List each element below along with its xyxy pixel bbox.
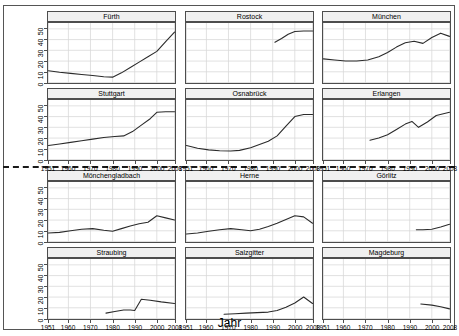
strip-label: Herne — [240, 172, 259, 180]
strip-header-erlangen: Erlangen — [322, 88, 451, 99]
x-tick-label: 2008 — [439, 165, 459, 172]
x-tick-label: 1960 — [332, 165, 354, 172]
strip-label: Mönchengladbach — [83, 172, 140, 180]
plot-area-furth — [47, 22, 176, 84]
plot-area-moenchengladbach — [47, 181, 176, 243]
y-tick-mark — [44, 264, 47, 265]
plot-area-herne — [185, 181, 314, 243]
panel-goerlitz: Görlitz — [322, 170, 451, 243]
y-tick-mark — [44, 83, 47, 84]
x-tick-label: 1990 — [262, 165, 284, 172]
y-tick-mark — [44, 187, 47, 188]
x-tick-mark — [228, 161, 229, 164]
plot-area-rostock — [185, 22, 314, 84]
strip-label: Fürth — [103, 13, 119, 21]
strip-label: Osnabrück — [233, 90, 267, 98]
y-tick-mark — [44, 138, 47, 139]
y-tick-label: 50 — [37, 105, 44, 145]
strip-label: Salzgitter — [235, 249, 264, 257]
plot-area-salzgitter — [185, 258, 314, 320]
x-tick-label: 1980 — [240, 165, 262, 172]
strip-label: Stuttgart — [98, 90, 124, 98]
x-tick-mark — [323, 161, 324, 164]
x-tick-label: 1970 — [354, 165, 376, 172]
panel-osnabrueck: Osnabrück — [185, 88, 314, 161]
plot-area-osnabrueck — [185, 99, 314, 161]
plot-area-goerlitz — [322, 181, 451, 243]
strip-label: Erlangen — [372, 90, 400, 98]
y-tick-mark — [44, 220, 47, 221]
y-tick-mark — [44, 297, 47, 298]
y-tick-mark — [44, 160, 47, 161]
panel-muenchen: München — [322, 11, 451, 84]
x-tick-mark — [313, 161, 314, 164]
x-tick-mark — [135, 161, 136, 164]
plot-area-stuttgart — [47, 99, 176, 161]
y-tick-mark — [44, 275, 47, 276]
x-tick-label: 1951 — [37, 165, 59, 172]
y-tick-mark — [44, 105, 47, 106]
y-tick-mark — [44, 127, 47, 128]
panel-salzgitter: Salzgitter — [185, 247, 314, 320]
y-tick-label: 50 — [37, 28, 44, 68]
x-tick-label: 1990 — [399, 165, 421, 172]
strip-label: Straubing — [97, 249, 127, 257]
x-tick-label: 1960 — [195, 165, 217, 172]
y-tick-mark — [44, 198, 47, 199]
y-tick-mark — [44, 308, 47, 309]
x-tick-mark — [388, 161, 389, 164]
strip-header-magdeburg: Magdeburg — [322, 247, 451, 258]
x-tick-mark — [90, 161, 91, 164]
plot-area-muenchen — [322, 22, 451, 84]
x-tick-label: 1980 — [377, 165, 399, 172]
x-tick-mark — [157, 161, 158, 164]
x-tick-mark — [343, 161, 344, 164]
plot-area-magdeburg — [322, 258, 451, 320]
strip-header-muenchen: München — [322, 11, 451, 22]
panel-furth: Fürth — [47, 11, 176, 84]
y-tick-mark — [44, 39, 47, 40]
strip-header-salzgitter: Salzgitter — [185, 247, 314, 258]
x-tick-label: 1951 — [175, 165, 197, 172]
x-tick-mark — [450, 161, 451, 164]
trellis-figure: Fürth Rostock München Stutt — [0, 0, 459, 336]
panel-erlangen: Erlangen — [322, 88, 451, 161]
y-tick-mark — [44, 61, 47, 62]
panel-rostock: Rostock — [185, 11, 314, 84]
strip-label: München — [372, 13, 401, 21]
x-tick-label: 1951 — [312, 165, 334, 172]
x-tick-label: 1960 — [57, 165, 79, 172]
x-tick-mark — [113, 161, 114, 164]
x-tick-mark — [186, 161, 187, 164]
x-tick-mark — [432, 161, 433, 164]
x-tick-mark — [206, 161, 207, 164]
y-tick-mark — [44, 149, 47, 150]
strip-header-straubing: Straubing — [47, 247, 176, 258]
y-tick-mark — [44, 72, 47, 73]
panel-moenchengladbach: Mönchengladbach — [47, 170, 176, 243]
panel-magdeburg: Magdeburg — [322, 247, 451, 320]
y-tick-mark — [44, 50, 47, 51]
panel-straubing: Straubing — [47, 247, 176, 320]
x-axis-title: Jahr — [0, 316, 459, 330]
x-tick-label: 1990 — [124, 165, 146, 172]
y-tick-mark — [44, 242, 47, 243]
y-tick-mark — [44, 209, 47, 210]
x-tick-mark — [410, 161, 411, 164]
strip-label: Magdeburg — [369, 249, 404, 257]
y-tick-mark — [44, 231, 47, 232]
x-tick-mark — [251, 161, 252, 164]
y-tick-mark — [44, 116, 47, 117]
y-tick-label: 50 — [37, 264, 44, 304]
panel-herne: Herne — [185, 170, 314, 243]
strip-header-osnabrueck: Osnabrück — [185, 88, 314, 99]
strip-label: Rostock — [237, 13, 262, 21]
x-tick-label: 1980 — [102, 165, 124, 172]
x-tick-mark — [365, 161, 366, 164]
strip-header-furth: Fürth — [47, 11, 176, 22]
x-tick-mark — [48, 161, 49, 164]
plot-area-erlangen — [322, 99, 451, 161]
panel-stuttgart: Stuttgart — [47, 88, 176, 161]
x-tick-mark — [175, 161, 176, 164]
x-tick-label: 1970 — [217, 165, 239, 172]
